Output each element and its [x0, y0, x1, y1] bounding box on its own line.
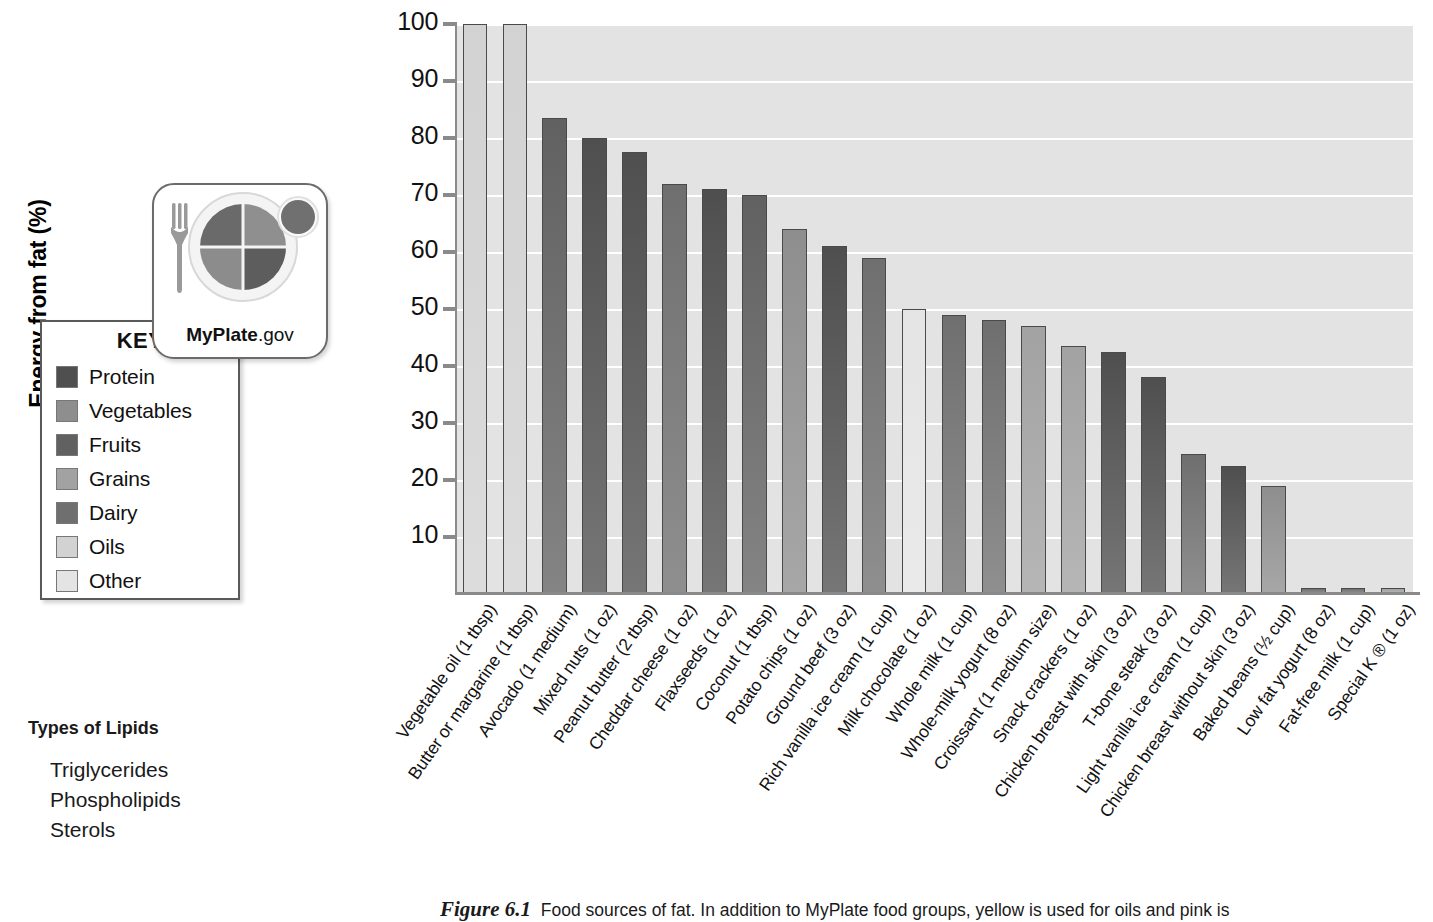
legend-swatch-dairy	[56, 502, 78, 524]
bar-3	[582, 138, 607, 594]
legend-item-other: Other	[56, 566, 141, 596]
bar-13	[982, 320, 1007, 594]
legend-swatch-fruits	[56, 434, 78, 456]
bar-19	[1221, 466, 1246, 594]
y-tick-mark-20	[443, 478, 457, 482]
lipid-item-0: Triglycerides	[50, 755, 308, 785]
bar-0	[463, 24, 488, 594]
y-tick-label-10: 10	[390, 520, 438, 549]
y-tick-mark-40	[443, 364, 457, 368]
y-tick-label-100: 100	[390, 7, 438, 36]
y-tick-label-30: 30	[390, 406, 438, 435]
gridline-90	[455, 81, 1413, 83]
fork-icon	[171, 203, 188, 293]
bar-12	[942, 315, 967, 594]
legend-swatch-grains	[56, 468, 78, 490]
legend-swatch-protein	[56, 366, 78, 388]
bar-9	[822, 246, 847, 594]
legend-item-vegetables: Vegetables	[56, 396, 192, 426]
legend-swatch-other	[56, 570, 78, 592]
myplate-plate-icon	[154, 185, 326, 321]
figure-caption-text: Food sources of fat. In addition to MyPl…	[541, 900, 1230, 920]
legend-swatch-vegetables	[56, 400, 78, 422]
plot-area	[455, 24, 1413, 594]
bar-20	[1261, 486, 1286, 594]
bar-7	[742, 195, 767, 594]
myplate-domain: .gov	[258, 324, 294, 345]
legend-label-vegetables: Vegetables	[89, 399, 192, 423]
y-tick-mark-60	[443, 250, 457, 254]
y-tick-label-80: 80	[390, 121, 438, 150]
y-tick-mark-80	[443, 136, 457, 140]
y-tick-mark-70	[443, 193, 457, 197]
legend-label-oils: Oils	[89, 535, 125, 559]
lipid-item-1: Phospholipids	[50, 785, 308, 815]
bar-5	[662, 184, 687, 594]
types-of-lipids-list: TriglyceridesPhospholipidsSterols	[28, 755, 308, 846]
bar-4	[622, 152, 647, 594]
types-of-lipids-block: Types of Lipids TriglyceridesPhospholipi…	[28, 718, 308, 846]
y-tick-label-20: 20	[390, 463, 438, 492]
bar-16	[1101, 352, 1126, 594]
types-of-lipids-heading: Types of Lipids	[28, 718, 308, 739]
y-tick-mark-90	[443, 79, 457, 83]
myplate-brand: MyPlate	[186, 324, 258, 345]
legend-label-protein: Protein	[89, 365, 155, 389]
gridline-100	[455, 24, 1413, 26]
legend-item-dairy: Dairy	[56, 498, 138, 528]
bar-1	[503, 24, 528, 594]
legend-label-dairy: Dairy	[89, 501, 138, 525]
y-tick-label-60: 60	[390, 235, 438, 264]
y-tick-mark-100	[443, 22, 457, 26]
y-tick-mark-30	[443, 421, 457, 425]
myplate-wordmark: MyPlate.gov	[154, 324, 326, 346]
y-tick-label-50: 50	[390, 292, 438, 321]
plate-segment-dairy	[281, 200, 315, 234]
bar-11	[902, 309, 927, 594]
y-tick-mark-50	[443, 307, 457, 311]
bar-10	[862, 258, 887, 594]
bar-2	[542, 118, 567, 594]
myplate-logo: MyPlate.gov	[152, 183, 328, 359]
chart-legend: KEY ProteinVegetablesFruitsGrainsDairyOi…	[40, 320, 240, 600]
y-tick-label-40: 40	[390, 349, 438, 378]
legend-item-fruits: Fruits	[56, 430, 141, 460]
bar-15	[1061, 346, 1086, 594]
figure-number: Figure 6.1	[440, 897, 531, 921]
x-axis-baseline	[455, 592, 1420, 595]
legend-label-grains: Grains	[89, 467, 150, 491]
legend-swatch-oils	[56, 536, 78, 558]
bar-18	[1181, 454, 1206, 594]
legend-item-grains: Grains	[56, 464, 150, 494]
bar-6	[702, 189, 727, 594]
y-tick-label-70: 70	[390, 178, 438, 207]
lipid-item-2: Sterols	[50, 815, 308, 845]
y-tick-label-90: 90	[390, 64, 438, 93]
legend-item-oils: Oils	[56, 532, 125, 562]
legend-label-fruits: Fruits	[89, 433, 141, 457]
bar-14	[1021, 326, 1046, 594]
legend-item-protein: Protein	[56, 362, 155, 392]
figure-caption: Figure 6.1 Food sources of fat. In addit…	[440, 897, 1430, 922]
bar-8	[782, 229, 807, 594]
bar-17	[1141, 377, 1166, 594]
y-tick-mark-10	[443, 535, 457, 539]
legend-label-other: Other	[89, 569, 141, 593]
